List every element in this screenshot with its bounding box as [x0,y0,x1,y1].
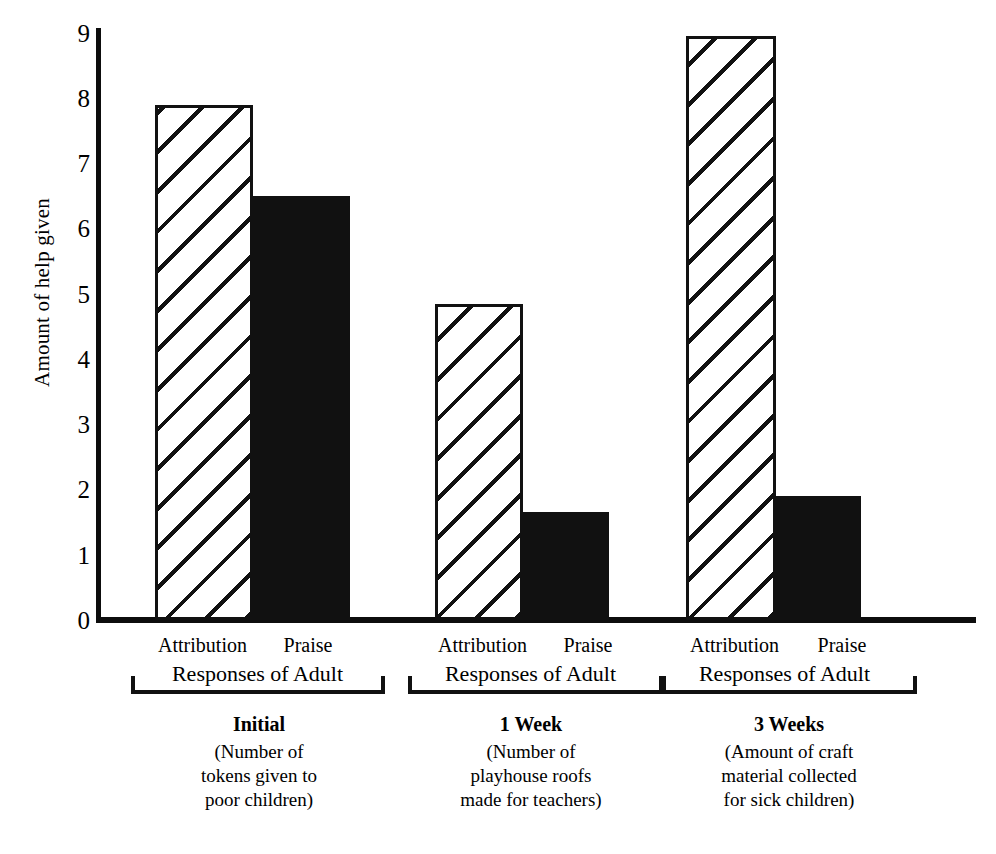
group-name-1week: 1 Week [392,712,670,738]
group-caption-1week: 1 Week (Number of playhouse roofs made f… [392,712,670,813]
bar-1week-praise [523,512,609,620]
group-desc-initial-line1: (Number of [120,740,398,764]
bar-chart-figure: Amount of help given 9 8 7 6 5 4 3 2 1 0… [0,0,996,854]
bar-1week-attribution [435,304,523,620]
x-tick-1week-praise: Praise [548,634,628,657]
bar-initial-praise [253,196,350,620]
group-desc-1week-line1: (Number of [392,740,670,764]
group-desc-3weeks-line1: (Amount of craft [650,740,928,764]
group-caption-3weeks: 3 Weeks (Amount of craft material collec… [650,712,928,813]
group-desc-1week-line3: made for teachers) [392,788,670,812]
group-bracket-initial [131,676,385,694]
x-tick-3weeks-praise: Praise [802,634,882,657]
group-bracket-3weeks [662,676,917,694]
bar-3weeks-attribution [686,36,776,620]
group-desc-1week-line2: playhouse roofs [392,764,670,788]
group-desc-initial-line2: tokens given to [120,764,398,788]
bar-3weeks-praise [776,496,861,620]
x-tick-1week-attribution: Attribution [420,634,545,657]
group-bracket-1week [408,676,663,694]
x-tick-initial-praise: Praise [268,634,348,657]
group-caption-initial: Initial (Number of tokens given to poor … [120,712,398,813]
bar-initial-attribution [155,105,253,620]
group-desc-3weeks-line2: material collected [650,764,928,788]
group-desc-initial-line3: poor children) [120,788,398,812]
group-name-initial: Initial [120,712,398,738]
x-tick-3weeks-attribution: Attribution [672,634,797,657]
group-name-3weeks: 3 Weeks [650,712,928,738]
group-desc-3weeks-line3: for sick children) [650,788,928,812]
plot-area [0,0,996,620]
x-tick-initial-attribution: Attribution [140,634,265,657]
